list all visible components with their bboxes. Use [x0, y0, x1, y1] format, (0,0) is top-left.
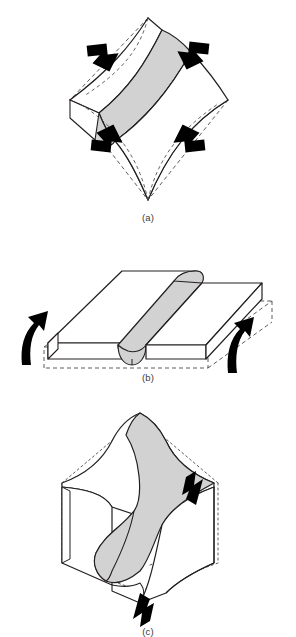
panel-b-bending: [0, 225, 296, 395]
panel-a-buckling: [0, 0, 296, 235]
panel-a-caption: (a): [0, 212, 296, 223]
panel-b-caption: (b): [0, 372, 296, 383]
panel-c-shear: [0, 395, 296, 635]
panel-c-caption: (c): [0, 626, 296, 637]
